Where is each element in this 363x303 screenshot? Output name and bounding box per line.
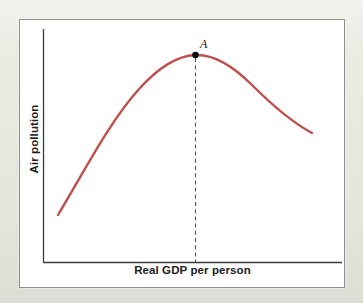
- figure-panel: [19, 19, 345, 288]
- x-axis-title: Real GDP per person: [43, 264, 342, 276]
- y-axis-title: Air pollution: [28, 71, 40, 207]
- peak-point-label: A: [200, 38, 207, 50]
